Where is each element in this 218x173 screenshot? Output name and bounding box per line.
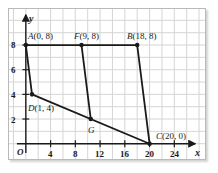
- segment-FG: [82, 45, 91, 119]
- point-A: [24, 43, 29, 48]
- point-G: [88, 117, 93, 122]
- point-C: [147, 141, 152, 146]
- point-B: [135, 43, 140, 48]
- segment-BC: [137, 45, 149, 144]
- shape-layer: [9, 9, 205, 159]
- coordinate-plane-figure: 8 6 4 2 4 8 12 16 20 24 y x O A(0, 8) F(…: [0, 0, 218, 173]
- point-F: [79, 43, 84, 48]
- plot-frame: 8 6 4 2 4 8 12 16 20 24 y x O A(0, 8) F(…: [8, 8, 206, 160]
- segment-AD: [26, 45, 32, 94]
- point-D: [30, 92, 35, 97]
